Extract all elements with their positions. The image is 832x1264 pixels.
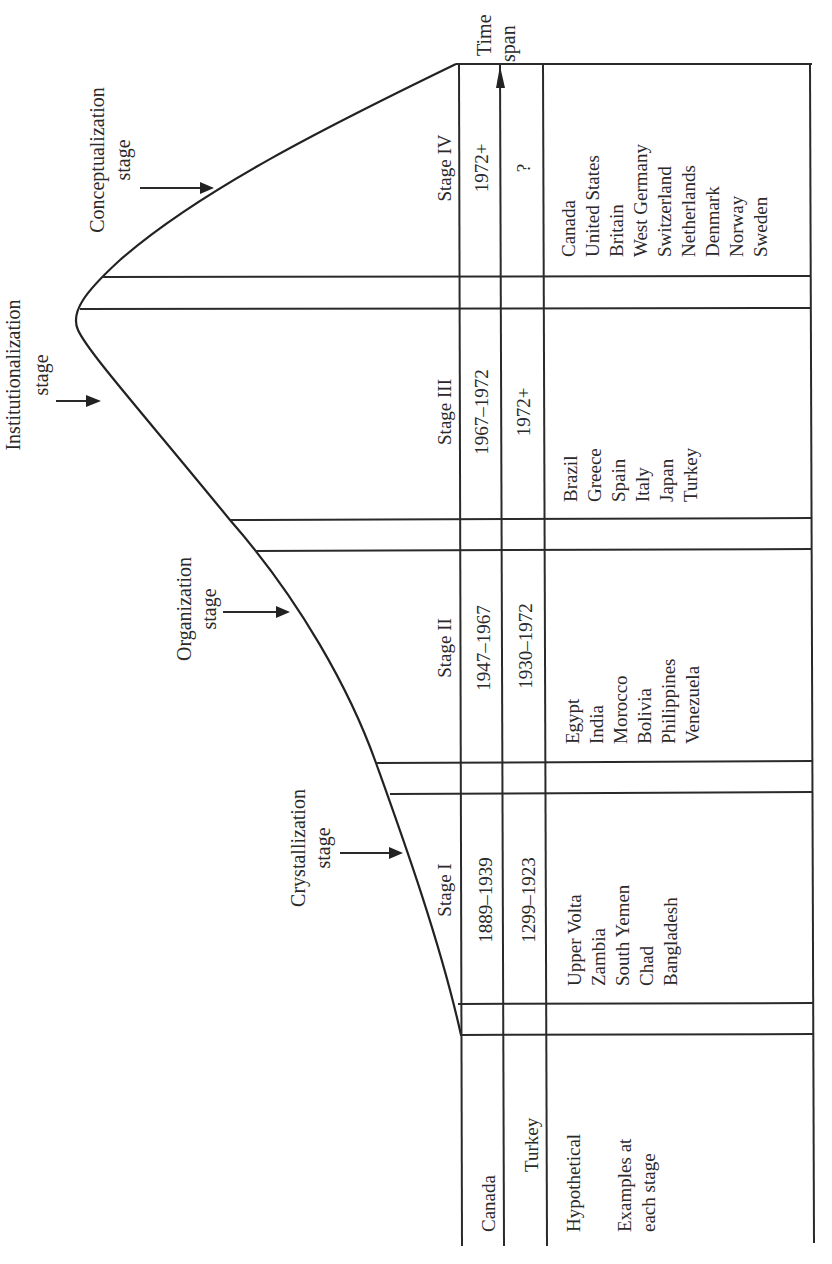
svg-text:Zambia: Zambia (588, 927, 609, 986)
crystallization-label: Crystallization (287, 789, 310, 907)
svg-text:Norway: Norway (726, 195, 747, 257)
boundary-line (80, 308, 810, 309)
stage-model-diagram: Time span Conceptualization stage Instit… (0, 0, 832, 1264)
boundary-line (390, 792, 812, 794)
svg-text:Switzerland: Switzerland (654, 166, 675, 257)
row-header-examples: Examples at (614, 1138, 635, 1232)
institutionalization-label-2: stage (30, 354, 53, 395)
stage-ii-examples: Egypt India Morocco Bolivia Philippines … (562, 658, 703, 744)
svg-text:Japan: Japan (656, 458, 677, 502)
boundary-line (376, 761, 812, 763)
turkey-stage-i-date: 1299–1923 (518, 857, 539, 943)
arrow-up-icon (496, 66, 505, 88)
svg-text:South Yemen: South Yemen (612, 884, 633, 986)
time-span-label-2: span (497, 25, 520, 62)
time-span-label: Time (473, 14, 495, 56)
svg-text:Sweden: Sweden (750, 196, 771, 257)
turkey-stage-iii-date: 1972+ (513, 388, 534, 437)
svg-text:West Germany: West Germany (630, 144, 651, 257)
canada-stage-i-date: 1889–1939 (475, 857, 496, 943)
boundary-line (230, 518, 811, 520)
svg-text:India: India (586, 704, 607, 744)
boundary-line (458, 1003, 813, 1004)
stage-i-label: Stage I (434, 863, 455, 916)
arrow-right-icon (389, 847, 403, 859)
svg-text:Morocco: Morocco (610, 675, 631, 744)
stage-ii-label: Stage II (434, 618, 455, 678)
row-header-hypothetical: Hypothetical (563, 1134, 584, 1232)
svg-text:Canada: Canada (558, 199, 579, 257)
svg-text:Egypt: Egypt (562, 698, 583, 744)
svg-text:Britain: Britain (606, 204, 627, 257)
boundary-line (255, 549, 811, 551)
arrow-right-icon (86, 395, 101, 407)
svg-text:Venezuela: Venezuela (682, 665, 703, 744)
boundary-line (460, 1034, 813, 1035)
svg-text:Philippines: Philippines (658, 658, 679, 744)
row-header-turkey: Turkey (521, 1117, 542, 1172)
row-header-canada: Canada (478, 1174, 499, 1232)
table-column-line-turkey (543, 64, 547, 1246)
svg-text:United States: United States (582, 155, 603, 257)
svg-text:Bolivia: Bolivia (634, 687, 655, 744)
turkey-stage-ii-date: 1930–1972 (515, 603, 536, 689)
svg-text:Chad: Chad (636, 945, 657, 986)
svg-text:Spain: Spain (608, 458, 629, 502)
svg-text:Bangladesh: Bangladesh (660, 897, 681, 986)
organization-label-2: stage (198, 588, 221, 629)
canada-stage-iii-date: 1967–1972 (471, 369, 492, 455)
svg-text:Upper Volta: Upper Volta (564, 894, 585, 986)
organization-label: Organization (173, 557, 196, 661)
table-right-border (810, 64, 814, 1243)
svg-text:Denmark: Denmark (702, 186, 723, 257)
turkey-stage-iv-date: ? (513, 164, 534, 172)
time-span-axis (500, 64, 504, 1246)
stage-iii-label: Stage III (434, 379, 455, 445)
boundary-line (103, 276, 810, 277)
arrow-right-icon (276, 606, 290, 618)
stage-iv-label: Stage IV (434, 134, 455, 201)
stage-iii-examples: Brazil Greece Spain Italy Japan Turkey (560, 447, 701, 502)
svg-text:Italy: Italy (632, 467, 653, 502)
canada-stage-iv-date: 1972+ (471, 144, 492, 193)
svg-text:Greece: Greece (584, 448, 605, 502)
svg-text:Turkey: Turkey (680, 447, 701, 502)
conceptualization-label-2: stage (112, 139, 135, 180)
table-column-line-stage (459, 64, 462, 1246)
crystallization-label-2: stage (312, 827, 335, 868)
svg-text:Brazil: Brazil (560, 456, 581, 502)
row-header-examples-2: each stage (638, 1153, 659, 1232)
stage-i-examples: Upper Volta Zambia South Yemen Chad Bang… (564, 884, 681, 986)
institutionalization-label: Institutionalization (2, 299, 24, 450)
conceptualization-label: Conceptualization (86, 87, 109, 233)
svg-text:Netherlands: Netherlands (678, 165, 699, 257)
stage-iv-examples: Canada United States Britain West German… (558, 144, 771, 257)
canada-stage-ii-date: 1947–1967 (473, 605, 494, 691)
